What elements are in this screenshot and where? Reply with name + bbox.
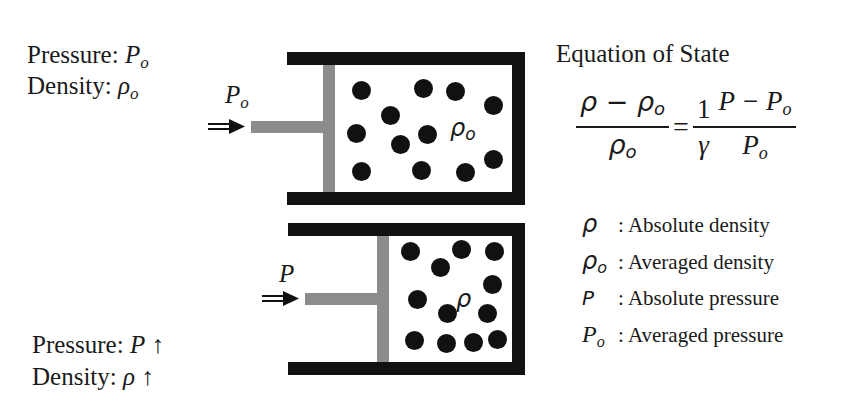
rhs-numerator: P − Po	[714, 84, 795, 126]
gas-symbol: ρ	[450, 114, 465, 142]
particle	[418, 125, 437, 144]
pressure-text: Pressure:	[27, 41, 125, 68]
particle	[446, 82, 465, 101]
particle	[408, 290, 427, 309]
compressed-density-label: Density: ρ ↑	[32, 362, 154, 392]
force-symbol: P	[279, 260, 294, 287]
particle	[352, 162, 371, 181]
particle	[405, 331, 424, 350]
pressure-subscript: o	[140, 53, 149, 72]
coefficient-fraction: 1 γ	[693, 92, 715, 162]
legend-symbol-text: ρ	[582, 210, 597, 238]
density-symbol: ρ	[123, 363, 135, 390]
particle	[347, 124, 366, 143]
legend-symbol: P	[582, 283, 618, 319]
cylinder-bottom-lower-wall	[288, 362, 525, 375]
particle	[464, 333, 483, 352]
rhs-numerator-text: P − P	[718, 86, 782, 116]
particle	[431, 258, 450, 277]
force-arrow-icon	[207, 118, 247, 136]
compressed-pressure-label: Pressure: P ↑	[32, 330, 164, 360]
legend-text: : Averaged density	[618, 250, 774, 274]
legend-symbol: ρo	[582, 246, 618, 283]
particle	[478, 304, 497, 323]
lhs-denominator-text: ρ	[608, 129, 625, 160]
legend-symbol: ρ	[582, 209, 618, 246]
pressure-text: Pressure:	[32, 331, 130, 358]
particle	[401, 242, 420, 261]
gas-subscript: o	[465, 124, 475, 144]
initial-density-label: Density: ρo	[27, 71, 138, 109]
lhs-denominator-sub: o	[626, 141, 637, 162]
coef-denominator: γ	[694, 128, 713, 162]
density-text: Density:	[27, 72, 118, 99]
rhs-denominator-sub: o	[759, 143, 768, 163]
pressure-symbol: P	[130, 331, 145, 358]
legend-text: : Absolute pressure	[618, 286, 779, 310]
lhs-numerator-sub: o	[654, 98, 665, 119]
density-symbol: ρ	[118, 72, 130, 99]
particle	[483, 275, 502, 294]
gas-symbol: ρ	[456, 285, 471, 313]
particle	[352, 81, 371, 100]
legend-symbol-sub: o	[597, 333, 605, 350]
particle	[485, 242, 504, 261]
legend-symbol-text: ρ	[582, 247, 597, 275]
legend-item: P: Absolute pressure	[582, 283, 783, 319]
equation-title: Equation of State	[556, 40, 730, 68]
density-subscript: o	[130, 84, 139, 103]
force-label-bottom: P	[279, 259, 294, 289]
particle	[414, 79, 433, 98]
particle	[438, 304, 457, 323]
coef-numerator: 1	[693, 92, 715, 126]
legend-item: ρo: Averaged density	[582, 246, 783, 283]
particle	[412, 161, 431, 180]
particle	[437, 334, 456, 353]
particle	[484, 150, 503, 169]
legend-symbol-sub: o	[597, 258, 607, 277]
gas-density-label-bottom: ρ	[456, 284, 471, 314]
up-arrow-icon: ↑	[141, 363, 154, 390]
legend-symbol-text: P	[582, 321, 597, 347]
force-arrow-icon	[261, 290, 301, 308]
density-text: Density:	[32, 363, 123, 390]
force-label-top: Po	[225, 80, 249, 118]
particle	[484, 96, 503, 115]
lhs-denominator: ρo	[604, 128, 640, 169]
gas-density-label-top: ρo	[450, 113, 476, 149]
cylinder-top-end-wall	[512, 52, 525, 205]
force-subscript: o	[240, 93, 249, 112]
particle	[452, 240, 471, 259]
cylinder-bottom-upper-wall	[288, 223, 525, 236]
rhs-numerator-sub: o	[783, 99, 792, 119]
rhs-fraction: P − Po Po	[714, 84, 795, 170]
rhs-denominator-text: P	[742, 130, 759, 160]
cylinder-top-lower-wall	[287, 192, 525, 205]
lhs-numerator-text: ρ − ρ	[580, 86, 654, 117]
symbol-legend: ρ: Absolute density ρo: Averaged density…	[582, 209, 783, 357]
legend-symbol: Po	[582, 319, 618, 357]
cylinder-top-upper-wall	[287, 52, 525, 65]
particle	[456, 163, 475, 182]
force-symbol: P	[225, 81, 240, 108]
particle	[381, 106, 400, 125]
lhs-numerator: ρ − ρo	[576, 85, 669, 126]
lhs-fraction: ρ − ρo ρo	[576, 85, 669, 169]
legend-symbol-text: P	[582, 286, 594, 310]
pressure-symbol: P	[125, 41, 140, 68]
equation: ρ − ρo ρo = 1 γ P − Po Po	[576, 84, 796, 170]
legend-item: Po: Averaged pressure	[582, 319, 783, 357]
legend-text: : Absolute density	[618, 213, 770, 237]
piston-bottom-rod	[305, 293, 379, 305]
particle	[391, 135, 410, 154]
cylinder-bottom-end-wall	[512, 223, 525, 375]
legend-text: : Averaged pressure	[618, 323, 783, 347]
equals-sign: =	[669, 111, 693, 142]
rhs-denominator: Po	[738, 128, 772, 170]
legend-item: ρ: Absolute density	[582, 209, 783, 246]
up-arrow-icon: ↑	[151, 331, 164, 358]
particle	[488, 330, 507, 349]
piston-top-rod	[251, 121, 325, 133]
